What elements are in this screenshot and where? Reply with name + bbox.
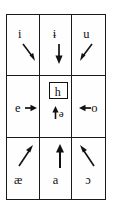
vowel-symbol-o: o: [91, 102, 97, 115]
boxed-h-container: h: [49, 82, 68, 99]
arrow-up-icon: [54, 143, 66, 169]
vowel-symbol-schwa: ə: [59, 108, 64, 119]
vowel-symbol-barred-i: ɨ: [53, 28, 56, 41]
vowel-symbol-u: u: [83, 28, 89, 41]
arrow-down-icon: [53, 43, 65, 65]
grid-cell-middle-left: e: [7, 76, 40, 137]
vowel-symbol-ae: æ: [14, 174, 22, 187]
vowel-symbol-open-o: ɔ: [85, 174, 91, 187]
grid-cell-top-left: i: [7, 15, 40, 76]
arrow-up-right-icon: [17, 144, 35, 168]
arrow-down-left-icon: [78, 42, 94, 62]
grid-cell-bottom-left: æ: [7, 138, 40, 199]
arrow-down-right-icon: [21, 42, 37, 62]
vowel-symbol-i: i: [18, 28, 21, 41]
vowel-grid: i ɨ u: [6, 14, 106, 200]
grid-cell-bottom-center: a: [40, 138, 73, 199]
consonant-symbol-h: h: [55, 86, 61, 98]
grid-cell-middle-right: o: [72, 76, 105, 137]
grid-cell-top-center: ɨ: [40, 15, 73, 76]
arrow-left-icon: [78, 103, 91, 113]
arrow-up-left-icon: [78, 144, 96, 168]
arrow-right-icon: [25, 103, 38, 113]
grid-cell-middle-center: h ə: [40, 76, 73, 137]
vowel-symbol-e: e: [15, 102, 21, 115]
vowel-symbol-a: a: [53, 174, 59, 187]
grid-cell-top-right: u: [72, 15, 105, 76]
grid-cell-bottom-right: ɔ: [72, 138, 105, 199]
vowel-chart-figure: i ɨ u: [0, 0, 114, 213]
